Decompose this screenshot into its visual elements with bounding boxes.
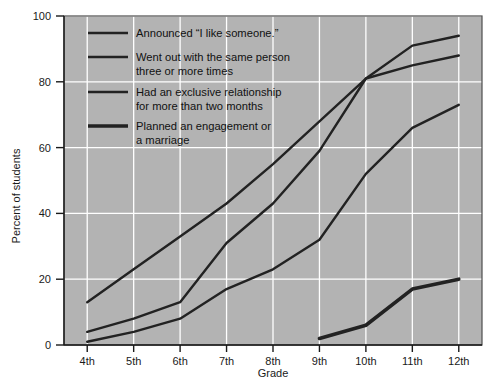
- x-tick-label: 9th: [312, 355, 327, 367]
- y-axis-title: Percent of students: [10, 148, 22, 243]
- x-tick-label: 6th: [172, 355, 187, 367]
- x-tick-label: 12th: [448, 355, 469, 367]
- x-tick-label: 4th: [80, 355, 95, 367]
- y-tick-label: 40: [39, 207, 51, 219]
- x-tick-label: 8th: [265, 355, 280, 367]
- legend-label-1: Went out with the same person: [136, 51, 290, 63]
- y-tick-label: 100: [33, 10, 51, 22]
- legend-label-2-line2: for more than two months: [136, 100, 263, 112]
- chart-container: 100806040200 4th5th6th7th8th9th10th11th1…: [0, 0, 499, 383]
- legend-label-3: Planned an engagement or: [136, 120, 271, 132]
- x-tick-label: 7th: [219, 355, 234, 367]
- legend-label-0: Announced “I like someone.”: [136, 27, 279, 39]
- y-axis-tick-labels: 100806040200: [33, 10, 51, 351]
- x-tick-label: 10th: [355, 355, 376, 367]
- y-tick-label: 20: [39, 273, 51, 285]
- y-tick-label: 60: [39, 142, 51, 154]
- y-tick-label: 80: [39, 76, 51, 88]
- y-axis-ticks: [56, 16, 64, 345]
- legend-label-1-line2: three or more times: [136, 65, 233, 77]
- legend-label-2: Had an exclusive relationship: [136, 86, 282, 98]
- y-tick-label: 0: [45, 339, 51, 351]
- x-tick-label: 11th: [402, 355, 423, 367]
- x-axis-ticks: [87, 345, 459, 352]
- legend-label-3-line2: a marriage: [136, 134, 189, 146]
- x-axis-title: Grade: [258, 367, 289, 379]
- x-axis-tick-labels: 4th5th6th7th8th9th10th11th12th: [80, 355, 470, 367]
- x-tick-label: 5th: [126, 355, 141, 367]
- line-chart-svg: 100806040200 4th5th6th7th8th9th10th11th1…: [0, 0, 499, 383]
